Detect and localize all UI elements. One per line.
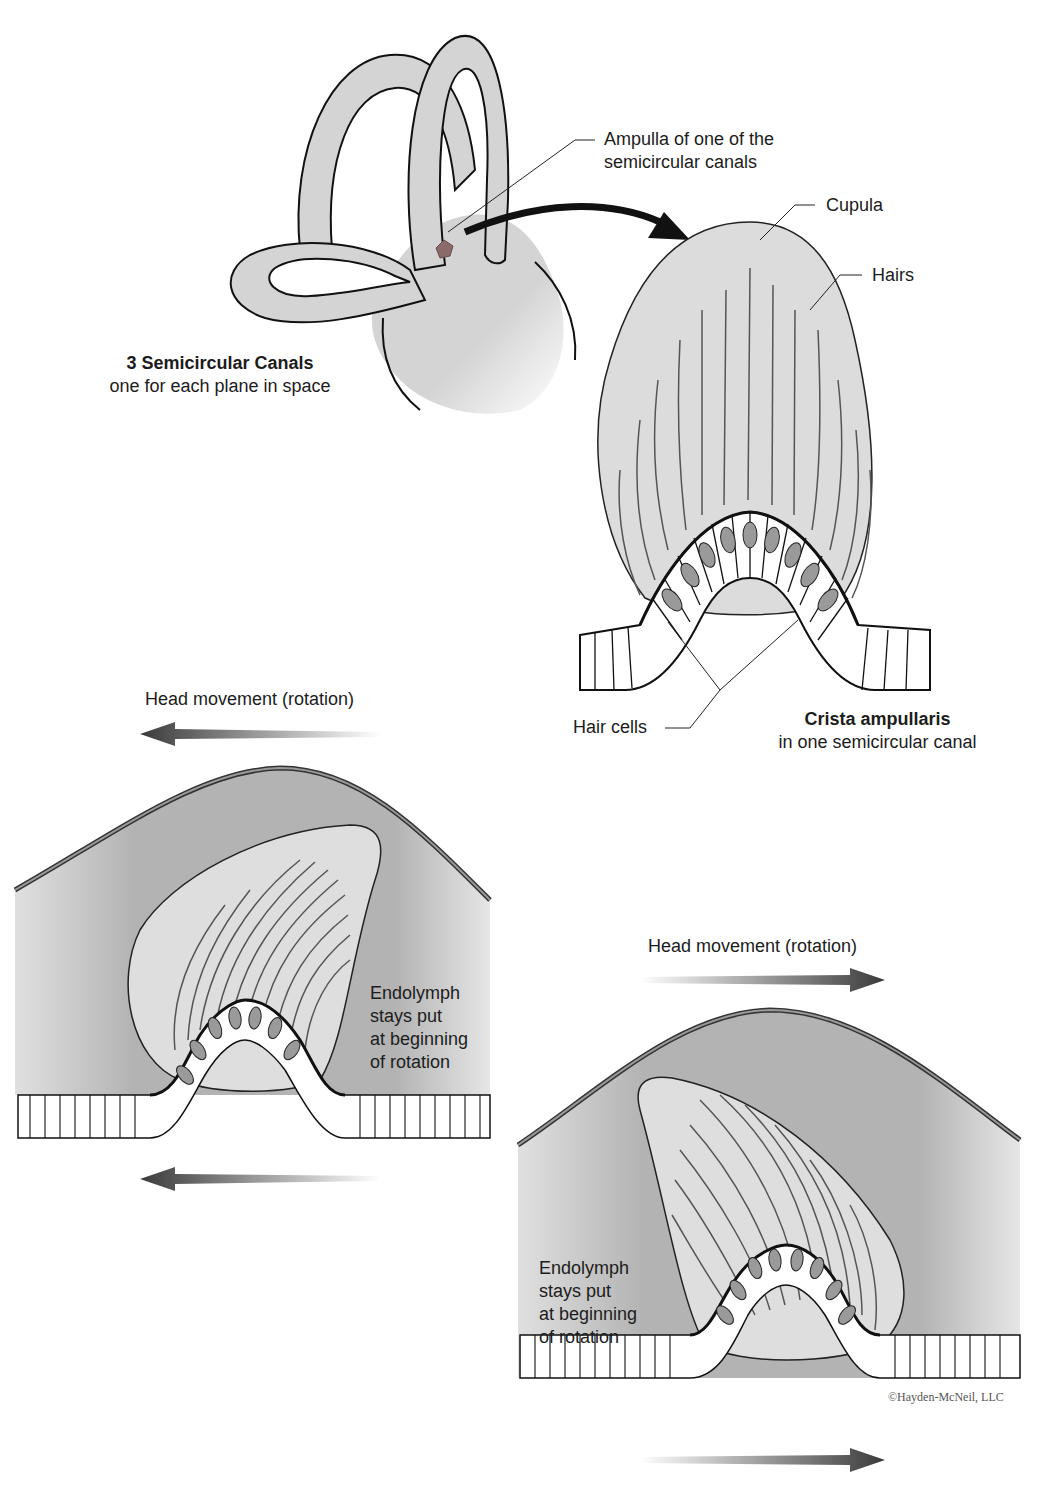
endolymph-line: stays put — [370, 1005, 468, 1028]
crista-ampullaris-caption: Crista ampullaris in one semicircular ca… — [755, 708, 1000, 754]
arrow-left-icon — [140, 722, 380, 746]
ampulla-label-line-1: Ampulla of one of the — [604, 128, 774, 151]
rotation-panel-left-illustration — [15, 722, 490, 1191]
ampulla-label: Ampulla of one of the semicircular canal… — [604, 128, 774, 174]
head-movement-label-left: Head movement (rotation) — [145, 688, 354, 711]
arrow-right-icon — [640, 1448, 885, 1472]
endolymph-line: Endolymph — [370, 982, 468, 1005]
hairs-label: Hairs — [872, 264, 914, 287]
ampulla-label-line-2: semicircular canals — [604, 151, 774, 174]
semicircular-canals-title: 3 Semicircular Canals — [80, 352, 360, 375]
endolymph-line: of rotation — [539, 1326, 637, 1349]
copyright-credit: ©Hayden-McNeil, LLC — [888, 1390, 1004, 1405]
cupula-label: Cupula — [826, 194, 883, 217]
endolymph-line: Endolymph — [539, 1257, 637, 1280]
endolymph-line: at beginning — [370, 1028, 468, 1051]
endolymph-line: of rotation — [370, 1051, 468, 1074]
arrow-left-icon — [140, 1167, 380, 1191]
endolymph-note-right: Endolymph stays put at beginning of rota… — [539, 1257, 637, 1349]
endolymph-note-left: Endolymph stays put at beginning of rota… — [370, 982, 468, 1074]
arrow-right-icon — [640, 968, 885, 992]
semicircular-canals-subtitle: one for each plane in space — [80, 375, 360, 398]
endolymph-line: stays put — [539, 1280, 637, 1303]
endolymph-line: at beginning — [539, 1303, 637, 1326]
hair-cells-label: Hair cells — [573, 716, 647, 739]
crista-ampullaris-subtitle: in one semicircular canal — [755, 731, 1000, 754]
crista-ampullaris-title: Crista ampullaris — [755, 708, 1000, 731]
head-movement-label-right: Head movement (rotation) — [648, 935, 857, 958]
semicircular-canals-caption: 3 Semicircular Canals one for each plane… — [80, 352, 360, 398]
